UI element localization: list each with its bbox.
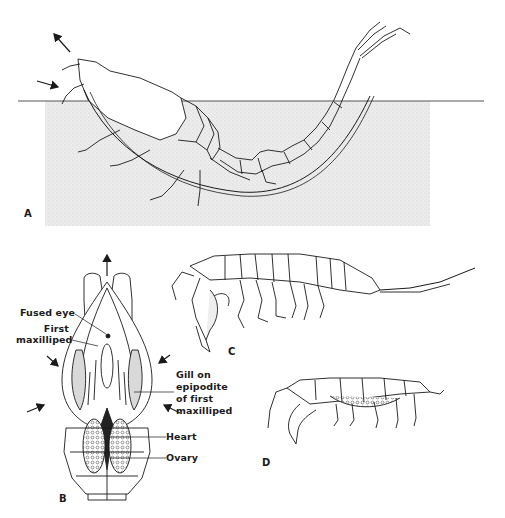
panel-letter-c: C <box>228 346 235 357</box>
panel-a <box>18 22 484 226</box>
label-fused-eye: Fused eye <box>20 307 75 318</box>
label-gill-line4: maxilliped <box>176 405 233 416</box>
label-ovary: Ovary <box>166 452 198 463</box>
label-first-maxilliped-line2: maxilliped <box>16 334 69 345</box>
label-gill-line1: Gill on <box>176 369 211 380</box>
panel-c <box>172 254 475 352</box>
panel-b <box>27 255 180 500</box>
b-inflow-arrow-upper-left <box>47 356 58 366</box>
label-gill-line2: epipodite <box>176 381 228 392</box>
inflow-arrow <box>37 81 58 87</box>
b-inflow-arrow-upper-right <box>159 355 170 363</box>
outflow-arrow <box>54 34 70 52</box>
figure-illustration <box>0 0 505 518</box>
label-heart: Heart <box>166 431 197 442</box>
animal-b <box>62 273 152 500</box>
panel-d <box>268 378 444 444</box>
label-first-maxilliped-line1: First <box>16 323 69 334</box>
label-gill-line3: of first <box>176 393 213 404</box>
panel-letter-b: B <box>59 493 67 504</box>
panel-letter-a: A <box>24 208 32 219</box>
water-region <box>45 101 430 226</box>
b-inflow-arrow-lower-left <box>27 405 44 412</box>
panel-letter-d: D <box>262 457 270 468</box>
